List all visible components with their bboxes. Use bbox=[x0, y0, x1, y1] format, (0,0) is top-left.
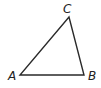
vertex-label-b: B bbox=[88, 69, 96, 83]
vertex-label-a: A bbox=[7, 69, 16, 83]
triangle-diagram: C A B bbox=[0, 0, 101, 88]
vertex-label-c: C bbox=[63, 2, 72, 16]
triangle-abc bbox=[20, 17, 84, 75]
